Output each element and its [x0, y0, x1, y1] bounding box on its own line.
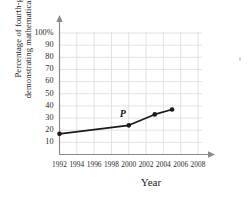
- y-tick-label: 30: [24, 113, 54, 122]
- x-axis-title-text: Year: [89, 176, 161, 188]
- y-tick-label: 100%: [24, 28, 54, 37]
- y-tick-label: 60: [24, 76, 54, 85]
- x-tick-label: 2008: [186, 160, 210, 169]
- y-tick-label: 50: [24, 89, 54, 98]
- chart-axes: [56, 15, 215, 158]
- y-tick-label: 90: [24, 40, 54, 49]
- x-axis-title: Year: [0, 176, 250, 188]
- y-tick-label: 10: [24, 137, 54, 146]
- y-tick-label: 40: [24, 101, 54, 110]
- page-artifact-mark: [239, 57, 241, 61]
- y-tick-label: 20: [24, 125, 54, 134]
- y-tick-label: 70: [24, 64, 54, 73]
- y-tick-label: 80: [24, 52, 54, 61]
- point-label-p: P: [120, 108, 126, 119]
- chart-gridlines: [60, 32, 203, 155]
- chart-figure: 102030405060708090100% 19921994199619982…: [0, 0, 250, 198]
